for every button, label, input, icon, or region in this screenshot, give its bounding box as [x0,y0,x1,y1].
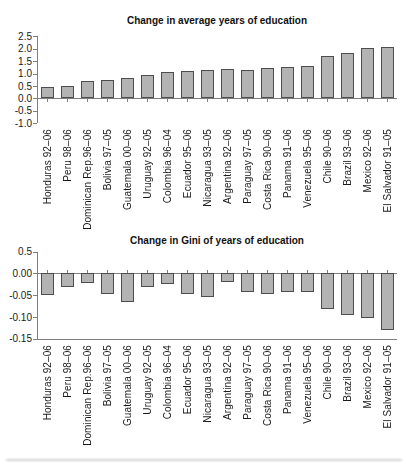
bar [41,273,54,295]
y-tick-label: 0.5 [2,246,32,257]
bar [201,273,214,297]
category-label: Panama 91–06 [282,345,293,414]
bar [241,273,254,291]
category-tick-mark [287,270,288,273]
category-label: Honduras 92–06 [42,345,53,420]
category-label: Nicaragua 93–05 [202,345,213,423]
bar [381,273,394,330]
bar [341,273,354,314]
category-tick-mark [47,270,48,273]
figure-canvas: Change in average years of education 2.5… [0,0,405,465]
category-tick-mark [107,270,108,273]
category-label: Mexico 92–06 [362,345,373,408]
y-tick-mark [33,339,37,340]
bar [141,273,154,287]
category-tick-mark [307,270,308,273]
bar [121,273,134,301]
category-tick-mark [147,270,148,273]
category-label: Brazil 93–06 [342,345,353,402]
bar [181,273,194,293]
y-tick-label: -0.10 [2,312,32,323]
y-tick-label: 0.00 [2,268,32,279]
category-label: Costa Rica 90–06 [262,345,273,426]
y-tick-mark [33,317,37,318]
y-tick-label: -0.05 [2,290,32,301]
category-tick-mark [67,270,68,273]
category-tick-mark [187,270,188,273]
bar [81,273,94,282]
category-tick-mark [327,270,328,273]
y-tick-label: -0.15 [2,333,32,344]
category-label: Paraguay 97–05 [242,345,253,420]
y-tick-mark [33,295,37,296]
bar [281,273,294,292]
category-tick-mark [387,270,388,273]
y-tick-mark [33,273,37,274]
category-label: El Salvador 91–05 [382,345,393,428]
category-label: Ecuador 95–06 [182,345,193,414]
category-label: Bolivia 97–05 [102,345,113,406]
bar [261,273,274,293]
category-label: Venezuela 95–06 [302,345,313,424]
bar [361,273,374,317]
category-tick-mark [207,270,208,273]
category-label: Colombia 96–04 [162,345,173,419]
bar [221,273,234,281]
category-label: Dominican Rep.96–06 [82,345,93,446]
y-axis-line [37,252,38,339]
page-artifact-smudge [6,459,402,461]
category-label: Guatemala 00–06 [122,345,133,426]
bar [61,273,74,287]
category-tick-mark [267,270,268,273]
category-tick-mark [227,270,228,273]
plot-area: 0.50.00-0.05-0.10-0.15Honduras 92–06Peru… [0,0,405,465]
category-tick-mark [367,270,368,273]
y-tick-mark [33,252,37,253]
category-label: Uruguay 92–05 [142,345,153,415]
category-tick-mark [247,270,248,273]
category-tick-mark [167,270,168,273]
category-tick-mark [127,270,128,273]
category-tick-mark [347,270,348,273]
category-label: Chile 90–06 [322,345,333,399]
category-label: Peru 98–06 [62,345,73,398]
category-tick-mark [87,270,88,273]
bar [161,273,174,284]
category-label: Argentina 92–06 [222,345,233,420]
bar [321,273,334,308]
bottom-border-line [37,339,397,340]
bar [301,273,314,292]
bar [101,273,114,293]
